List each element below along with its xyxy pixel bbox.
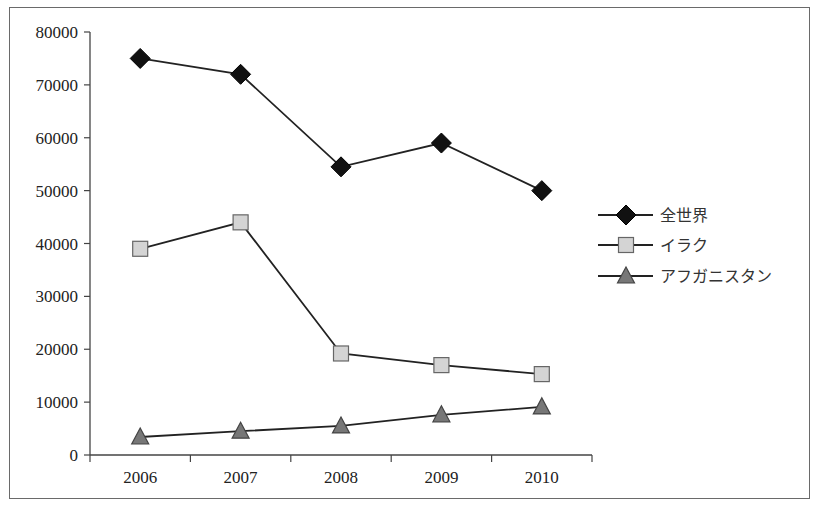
square-marker <box>534 367 549 382</box>
diamond-marker <box>431 133 451 153</box>
legend-label: アフガニスタン <box>660 267 772 286</box>
y-tick-label: 20000 <box>36 340 79 359</box>
y-tick-label: 10000 <box>36 393 79 412</box>
y-tick-label: 40000 <box>36 235 79 254</box>
legend-item: 全世界 <box>598 205 708 225</box>
square-marker <box>233 215 248 230</box>
x-tick-label: 2007 <box>224 468 259 487</box>
triangle-icon <box>618 267 635 283</box>
y-tick-label: 60000 <box>36 129 79 148</box>
plot-area <box>130 48 552 444</box>
y-tick-label: 30000 <box>36 287 79 306</box>
triangle-marker <box>533 398 550 414</box>
diamond-marker <box>130 48 150 68</box>
diamond-icon <box>616 205 636 225</box>
legend-item: アフガニスタン <box>598 267 772 286</box>
axes: 0100002000030000400005000060000700008000… <box>36 23 593 487</box>
square-marker <box>133 241 148 256</box>
series-square <box>133 215 550 382</box>
series-triangle <box>132 398 551 444</box>
legend-label: 全世界 <box>660 206 708 225</box>
x-tick-label: 2010 <box>525 468 559 487</box>
diamond-marker <box>532 181 552 201</box>
y-tick-label: 50000 <box>36 182 79 201</box>
square-marker <box>334 346 349 361</box>
legend: 全世界イラクアフガニスタン <box>598 205 772 286</box>
legend-item: イラク <box>598 236 708 255</box>
y-tick-label: 70000 <box>36 76 79 95</box>
square-icon <box>619 238 634 253</box>
square-marker <box>434 358 449 373</box>
y-tick-label: 0 <box>70 446 79 465</box>
series-diamond <box>130 48 552 200</box>
x-tick-label: 2008 <box>324 468 358 487</box>
x-tick-label: 2006 <box>123 468 157 487</box>
line-chart: 0100002000030000400005000060000700008000… <box>0 0 817 511</box>
legend-label: イラク <box>660 236 708 255</box>
y-tick-label: 80000 <box>36 23 79 42</box>
x-tick-label: 2009 <box>424 468 458 487</box>
